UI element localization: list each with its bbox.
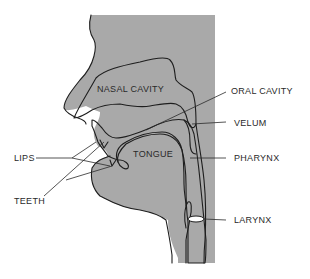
label-nasal-cavity: NASAL CAVITY [97,84,164,94]
label-pharynx: PHARYNX [234,153,279,163]
vocal-tract-diagram: NASAL CAVITY ORAL CAVITY VELUM TONGUE PH… [0,0,310,279]
leader-lips-upper [72,142,96,158]
label-velum: VELUM [234,118,267,128]
label-larynx: LARYNX [234,215,272,225]
label-lips: LIPS [14,153,35,163]
larynx-shape [188,216,204,222]
label-oral-cavity: ORAL CAVITY [231,86,293,96]
label-teeth: TEETH [14,196,45,206]
label-tongue: TONGUE [133,149,173,159]
head-tissue [64,15,215,263]
